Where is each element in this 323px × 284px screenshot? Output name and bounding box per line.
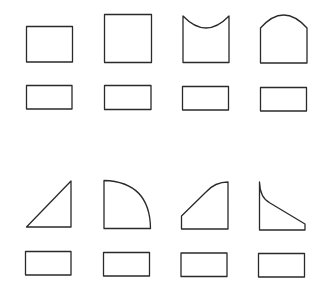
label-box-1[interactable] (27, 86, 73, 110)
label-box-6[interactable] (104, 253, 150, 277)
shape-quarter-circle (104, 181, 151, 229)
label-box-5[interactable] (26, 252, 72, 276)
shape-concave-slope (260, 182, 306, 230)
label-box-8[interactable] (259, 254, 305, 278)
shape-right-triangle (27, 181, 72, 227)
shape-arched-top-rectangle (261, 15, 308, 63)
label-box-4[interactable] (261, 88, 307, 112)
shape-square (105, 15, 152, 63)
shapes-figure (0, 0, 323, 284)
label-box-3[interactable] (183, 87, 229, 111)
label-box-7[interactable] (181, 253, 227, 277)
shape-rectangle (27, 27, 73, 63)
shape-concave-top-rectangle (183, 16, 229, 63)
label-box-2[interactable] (105, 86, 152, 110)
shape-curved-ramp (182, 182, 229, 229)
